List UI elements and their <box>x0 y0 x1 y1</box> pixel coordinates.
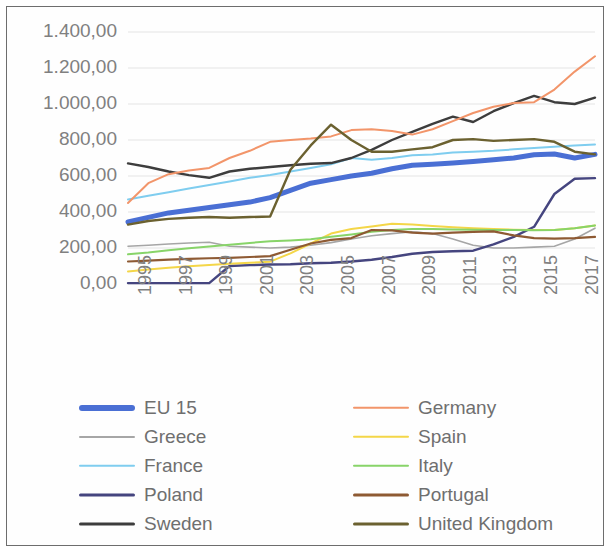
legend-column-left: EU 15GreeceFrancePolandSweden <box>79 393 329 538</box>
series-line-germany <box>128 56 595 203</box>
legend-color-swatch <box>79 401 135 415</box>
y-axis-tick-label: 800,00 <box>21 128 117 150</box>
legend-item-label: France <box>144 455 203 477</box>
y-axis-tick-label: 400,00 <box>21 200 117 222</box>
legend-item[interactable]: Sweden <box>79 509 329 538</box>
x-axis-tick-label: 2011 <box>460 256 481 295</box>
chart-frame: 0,00200,00400,00600,00800,001.000,001.20… <box>6 6 604 546</box>
legend-item-label: Poland <box>144 484 203 506</box>
legend-item-label: Germany <box>418 397 496 419</box>
plot-area: 0,00200,00400,00600,00800,001.000,001.20… <box>7 7 604 387</box>
y-axis-tick-label: 600,00 <box>21 164 117 186</box>
legend-item[interactable]: Germany <box>353 393 603 422</box>
series-line-portugal <box>128 230 595 262</box>
legend-color-swatch <box>79 459 135 473</box>
x-axis-tick-label: 1999 <box>216 255 237 295</box>
x-axis-tick-label: 2007 <box>379 255 400 295</box>
x-axis-tick-label: 2005 <box>338 255 359 295</box>
x-axis-tick-label: 2017 <box>582 255 603 295</box>
legend-color-swatch <box>79 517 135 531</box>
legend-color-swatch <box>353 430 409 444</box>
legend-item-label: Italy <box>418 455 453 477</box>
x-axis-tick-label: 2009 <box>419 255 440 295</box>
legend-item[interactable]: Poland <box>79 480 329 509</box>
legend-item[interactable]: Portugal <box>353 480 603 509</box>
legend-color-swatch <box>353 488 409 502</box>
x-axis-tick-label: 2001 <box>257 255 278 295</box>
x-axis-tick-label: 1997 <box>176 255 197 295</box>
legend-item-label: Portugal <box>418 484 489 506</box>
legend-item-label: Spain <box>418 426 467 448</box>
legend-item[interactable]: United Kingdom <box>353 509 603 538</box>
legend-item-label: EU 15 <box>144 397 197 419</box>
legend-item[interactable]: EU 15 <box>79 393 329 422</box>
legend-item[interactable]: Greece <box>79 422 329 451</box>
series-lines <box>128 56 595 283</box>
chart-legend: EU 15GreeceFrancePolandSweden GermanySpa… <box>79 393 589 541</box>
legend-color-swatch <box>353 401 409 415</box>
legend-item[interactable]: France <box>79 451 329 480</box>
y-axis-tick-label: 0,00 <box>21 272 117 294</box>
x-axis-tick-label: 2013 <box>500 255 521 295</box>
legend-column-right: GermanySpainItalyPortugalUnited Kingdom <box>353 393 603 538</box>
x-axis-tick-label: 2015 <box>541 255 562 295</box>
y-axis-tick-label: 1.000,00 <box>21 92 117 114</box>
legend-color-swatch <box>79 430 135 444</box>
y-axis-tick-label: 200,00 <box>21 236 117 258</box>
legend-color-swatch <box>79 488 135 502</box>
x-axis-tick-label: 1995 <box>135 255 156 295</box>
series-line-italy <box>128 226 595 255</box>
y-axis-tick-label: 1.400,00 <box>21 20 117 42</box>
legend-item-label: Sweden <box>144 513 213 535</box>
legend-item[interactable]: Spain <box>353 422 603 451</box>
legend-item-label: Greece <box>144 426 206 448</box>
legend-color-swatch <box>353 459 409 473</box>
legend-item[interactable]: Italy <box>353 451 603 480</box>
series-line-sweden <box>128 96 595 178</box>
legend-color-swatch <box>353 517 409 531</box>
x-axis-tick-label: 2003 <box>297 255 318 295</box>
legend-item-label: United Kingdom <box>418 513 553 535</box>
y-axis-tick-label: 1.200,00 <box>21 56 117 78</box>
